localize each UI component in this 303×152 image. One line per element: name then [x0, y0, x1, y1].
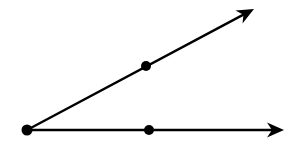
- lower-ray-point: [144, 125, 154, 135]
- upper-ray-point: [141, 61, 151, 71]
- upper-ray-line: [27, 15, 243, 130]
- rays-group: [27, 9, 284, 138]
- vertex-point: [22, 125, 33, 136]
- angle-diagram-svg: [0, 0, 303, 152]
- angle-diagram: [0, 0, 303, 152]
